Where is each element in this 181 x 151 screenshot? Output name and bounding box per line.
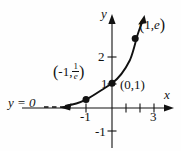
point-label-1-e-x: 1, <box>144 17 154 32</box>
asymptote-label: y = 0 <box>8 96 36 109</box>
curve-arrowhead-left <box>60 103 72 110</box>
x-axis-arrowhead <box>164 104 174 111</box>
x-tick-label-minus-1: -1 <box>80 110 91 123</box>
y-tick-label-2: 2 <box>98 50 105 63</box>
point-marker-minus1-inv-e <box>83 96 90 103</box>
exponential-graph-figure: y x 2 1 -1 -1 3 (1,e) (0,1) (-1,1e) y = … <box>0 0 181 151</box>
point-label-1-e: (1,e) <box>139 17 165 33</box>
y-axis-arrowhead <box>108 14 115 24</box>
point-label-minus1-x: -1, <box>58 64 72 79</box>
point-label-minus1-close: ) <box>79 63 84 80</box>
x-tick-label-3: 3 <box>150 110 157 123</box>
y-tick-label-minus-1: -1 <box>95 125 106 138</box>
point-marker-1-e <box>132 35 139 42</box>
y-axis-label: y <box>101 7 107 20</box>
y-tick-label-1: 1 <box>101 77 108 90</box>
point-marker-0-1 <box>109 80 116 87</box>
point-label-minus1-inv-e: (-1,1e) <box>53 62 84 82</box>
x-axis-label: x <box>164 88 170 101</box>
point-label-0-1: (0,1) <box>120 78 145 91</box>
point-label-1-e-close: ) <box>160 16 165 33</box>
